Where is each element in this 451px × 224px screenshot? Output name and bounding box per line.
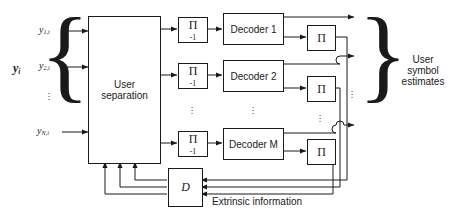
input-signal-sub-1: 1,i xyxy=(43,28,49,35)
deinterleaver-exponent-2: -1 xyxy=(189,79,198,88)
decoder-block-3[interactable]: Decoder M xyxy=(223,128,284,160)
user-symbol-estimates-label: User symbol estimates xyxy=(398,54,448,88)
input-signal-label-2: y2,i xyxy=(39,60,50,72)
output-column-ellipsis: ... xyxy=(347,88,357,97)
input-signal-label-3: yN,i xyxy=(37,125,49,137)
deinterleaver-block-3[interactable]: Π-1 xyxy=(178,131,208,157)
input-signal-sub-3: N,i xyxy=(41,129,48,136)
interleaver-block-1[interactable]: Π xyxy=(307,25,336,51)
dec2-estimate-jump xyxy=(336,56,340,64)
interleaver-symbol-2: Π xyxy=(317,82,326,97)
user-separation-block[interactable]: User separation xyxy=(88,16,161,164)
user-symbol-estimates-line3: estimates xyxy=(398,76,448,87)
extrinsic-information-label: Extrinsic information xyxy=(212,196,302,207)
deinterleaver-exponent-3: -1 xyxy=(189,147,198,156)
decoder-label-3: Decoder M xyxy=(229,139,278,150)
input-vector-subscript: i xyxy=(18,67,20,76)
deinterleaver-column-ellipsis: ... xyxy=(187,104,197,113)
user-symbol-estimates-line2: symbol xyxy=(398,65,448,76)
deinterleaver-symbol-1: Π xyxy=(189,18,198,33)
decoder-block-2[interactable]: Decoder 2 xyxy=(223,60,284,92)
d-out-3 xyxy=(105,162,167,194)
input-ellipsis: ... xyxy=(44,90,54,99)
user-symbol-estimates-line1: User xyxy=(398,54,448,65)
extrinsic-information-text: Extrinsic information xyxy=(212,196,302,207)
interleaver-symbol-1: Π xyxy=(317,31,326,46)
interleaver-column-ellipsis: ... xyxy=(315,112,325,121)
input-signal-sub-2: 2,i xyxy=(43,64,49,71)
dec3-estimate-jump-1 xyxy=(332,125,336,133)
delay-symbol: D xyxy=(181,180,190,195)
deinterleaver-block-2[interactable]: Π-1 xyxy=(178,63,208,89)
decoder-column-ellipsis: ... xyxy=(248,104,258,113)
figure-canvas: { } yi y1,i y2,i yN,i ... User separatio… xyxy=(0,0,451,224)
deinterleaver-block-1[interactable]: Π-1 xyxy=(178,17,208,43)
delay-block[interactable]: D xyxy=(168,168,203,207)
interleaver-block-3[interactable]: Π xyxy=(307,139,336,165)
user-separation-label-line2: separation xyxy=(101,90,148,101)
decoder-label-1: Decoder 1 xyxy=(230,24,276,35)
deinterleaver-symbol-3: Π xyxy=(189,132,198,147)
deinterleaver-exponent-1: -1 xyxy=(189,33,198,42)
deinterleaver-symbol-2: Π xyxy=(189,64,198,79)
interleaver-symbol-3: Π xyxy=(317,145,326,160)
decoder-label-2: Decoder 2 xyxy=(230,71,276,82)
interleaver-block-2[interactable]: Π xyxy=(307,76,336,102)
input-vector-label: yi xyxy=(13,62,20,76)
d-out-1 xyxy=(135,162,167,180)
decoder-block-1[interactable]: Decoder 1 xyxy=(223,13,284,45)
d-out-2 xyxy=(120,162,167,187)
input-signal-label-1: y1,i xyxy=(39,24,50,36)
user-separation-label-line1: User xyxy=(114,79,135,90)
